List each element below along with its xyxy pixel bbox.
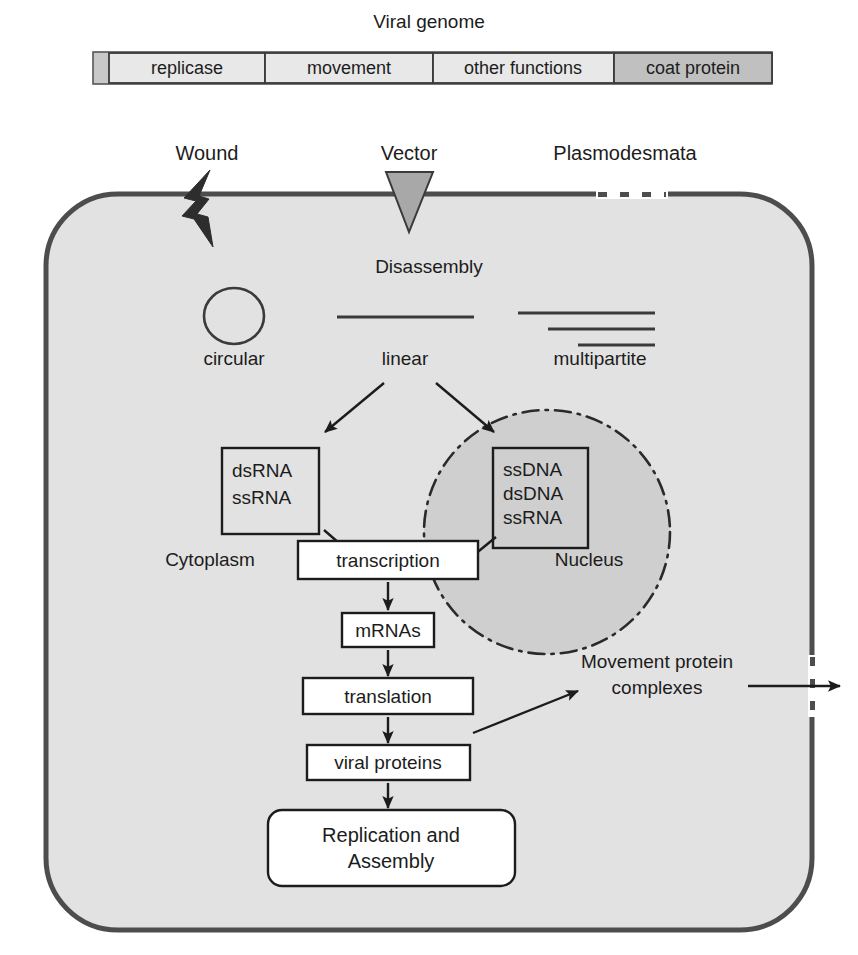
genome-map-title: Viral genome xyxy=(373,11,485,32)
movement-protein-line-1: Movement protein xyxy=(581,651,733,672)
compartment-label-cytoplasm: Cytoplasm xyxy=(165,549,255,570)
step-label-viral-proteins: viral proteins xyxy=(334,752,442,773)
genome-form-label-multipartite: multipartite xyxy=(554,348,647,369)
movement-protein-line-2: complexes xyxy=(612,677,703,698)
cytoplasmic-genome-line-2: ssRNA xyxy=(232,487,291,508)
nuclear-genome-line-3: ssRNA xyxy=(503,507,562,528)
genome-segment-label-replicase: replicase xyxy=(151,58,223,78)
genome-segment-label-coat-protein: coat protein xyxy=(646,58,740,78)
entry-label-vector: Vector xyxy=(381,142,438,164)
entry-label-wound: Wound xyxy=(175,142,238,164)
step-label-translation: translation xyxy=(344,686,432,707)
step-label-mrnas: mRNAs xyxy=(355,620,420,641)
genome-form-label-linear: linear xyxy=(382,348,429,369)
genome-segment-label-other-functions: other functions xyxy=(464,58,582,78)
nuclear-genome-line-2: dsDNA xyxy=(503,483,564,504)
step-box-replication-and-assembly[interactable] xyxy=(268,810,515,886)
compartment-label-nucleus: Nucleus xyxy=(555,549,624,570)
nucleus-boundary xyxy=(424,410,670,654)
step-label-transcription: transcription xyxy=(336,550,440,571)
figure-canvas: Viral genome replicase movement other fu… xyxy=(0,0,858,955)
replication-box-line-1: Replication and xyxy=(322,824,460,846)
cytoplasmic-genome-line-1: dsRNA xyxy=(232,460,293,481)
entry-label-plasmodesmata: Plasmodesmata xyxy=(553,142,697,164)
nuclear-genome-line-1: ssDNA xyxy=(503,459,562,480)
disassembly-label: Disassembly xyxy=(375,256,483,277)
plant-virus-infection-diagram: Viral genome replicase movement other fu… xyxy=(0,0,858,955)
genome-form-label-circular: circular xyxy=(203,348,265,369)
genome-segment-label-movement: movement xyxy=(307,58,391,78)
replication-box-line-2: Assembly xyxy=(348,850,435,872)
